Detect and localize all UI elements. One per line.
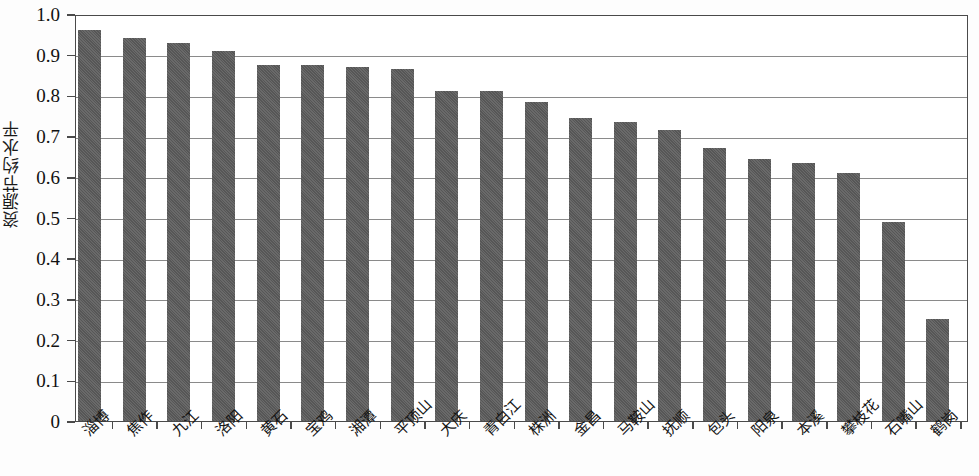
bar: [926, 319, 949, 421]
bar: [837, 173, 860, 421]
bar: [301, 65, 324, 421]
y-tick-label: 0.7: [14, 127, 60, 146]
y-tick-mark: [67, 96, 75, 98]
bar: [748, 159, 771, 422]
y-tick-label: 0.2: [14, 331, 60, 350]
bar: [435, 91, 458, 421]
bar: [525, 102, 548, 421]
y-tick-mark: [67, 218, 75, 220]
bar: [614, 122, 637, 421]
bar: [882, 222, 905, 421]
y-tick-mark: [67, 258, 75, 260]
y-tick-mark: [67, 136, 75, 138]
bar: [569, 118, 592, 421]
y-tick-mark: [67, 177, 75, 179]
bar: [391, 69, 414, 421]
bar: [123, 38, 146, 421]
bar: [658, 130, 681, 421]
y-tick-label: 0.4: [14, 249, 60, 268]
bar: [792, 163, 815, 421]
y-tick-label: 0.6: [14, 168, 60, 187]
bar-chart: 资源节约水平 1.00.90.80.70.60.50.40.30.20.10 淄…: [0, 0, 979, 476]
y-tick-label: 0.5: [14, 209, 60, 228]
y-tick-mark: [67, 14, 75, 16]
y-tick-mark: [67, 421, 75, 423]
y-tick-mark: [67, 340, 75, 342]
y-tick-label: 0.9: [14, 46, 60, 65]
bar: [480, 91, 503, 421]
y-tick-mark: [67, 381, 75, 383]
y-tick-label: 0.8: [14, 86, 60, 105]
y-tick-label: 0.1: [14, 371, 60, 390]
y-tick-label: 1.0: [14, 5, 60, 24]
plot-area: [75, 15, 968, 422]
bar: [78, 30, 101, 421]
bars-series: [76, 16, 967, 421]
bar: [703, 148, 726, 421]
x-axis-labels: 淄博焦作九江洛阳黄石宝鸡湘潭平顶山大庆青白江株洲金昌马鞍山抚顺包头阳泉本溪攀枝花…: [0, 424, 979, 476]
y-tick-label: 0.3: [14, 290, 60, 309]
bar: [212, 51, 235, 421]
y-tick-mark: [67, 55, 75, 57]
bar: [257, 65, 280, 421]
y-tick-mark: [67, 299, 75, 301]
bar: [167, 43, 190, 422]
bar: [346, 67, 369, 421]
